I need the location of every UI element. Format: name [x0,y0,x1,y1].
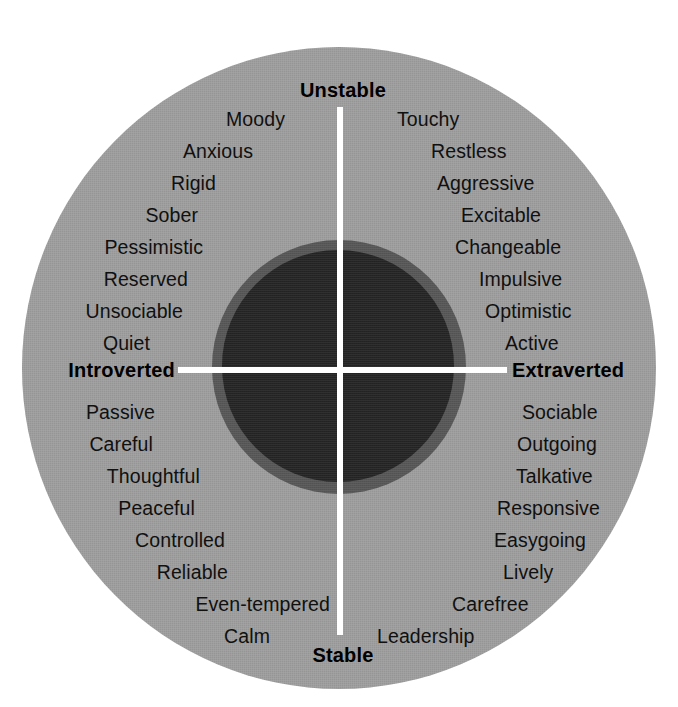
pole-label-extraverted: Extraverted [512,360,624,380]
trait-even-tempered: Even-tempered [195,595,330,615]
pole-label-introverted: Introverted [68,360,175,380]
trait-easygoing: Easygoing [494,531,586,551]
trait-passive: Passive [86,403,155,423]
trait-rigid: Rigid [171,174,216,194]
trait-lively: Lively [503,563,553,583]
trait-aggressive: Aggressive [437,174,534,194]
trait-sober: Sober [145,206,198,226]
trait-restless: Restless [431,142,507,162]
trait-talkative: Talkative [516,467,593,487]
trait-reliable: Reliable [157,563,228,583]
trait-sociable: Sociable [522,403,598,423]
pole-label-stable: Stable [312,645,373,665]
trait-touchy: Touchy [397,110,459,130]
circumplex-diagram: Unstable Stable Introverted Extraverted … [0,0,678,707]
trait-impulsive: Impulsive [479,270,562,290]
trait-active: Active [505,334,559,354]
trait-outgoing: Outgoing [517,435,597,455]
trait-peaceful: Peaceful [118,499,195,519]
trait-changeable: Changeable [455,238,561,258]
trait-moody: Moody [226,110,285,130]
trait-unsociable: Unsociable [86,302,183,322]
trait-quiet: Quiet [103,334,150,354]
trait-optimistic: Optimistic [485,302,572,322]
pole-label-unstable: Unstable [300,80,386,100]
trait-thoughtful: Thoughtful [107,467,200,487]
trait-anxious: Anxious [183,142,253,162]
trait-excitable: Excitable [461,206,541,226]
trait-carefree: Carefree [452,595,529,615]
trait-leadership: Leadership [377,627,475,647]
trait-responsive: Responsive [497,499,600,519]
trait-calm: Calm [224,627,270,647]
trait-reserved: Reserved [104,270,188,290]
horizontal-axis-line [178,367,507,373]
trait-careful: Careful [89,435,153,455]
trait-pessimistic: Pessimistic [104,238,203,258]
trait-controlled: Controlled [135,531,225,551]
